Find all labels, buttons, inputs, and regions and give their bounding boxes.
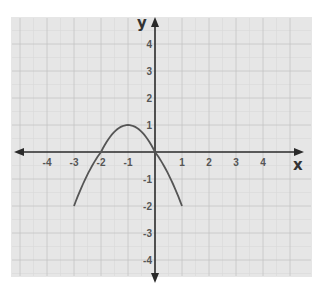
y-tick-label: 1 (146, 120, 152, 131)
x-tick-label: 3 (233, 157, 239, 168)
y-axis-down-arrow-icon (151, 273, 159, 283)
x-tick-label: -1 (124, 157, 133, 168)
y-tick-label: 3 (146, 66, 152, 77)
coordinate-plane: -4-3-2-11234 4321-1-2-3-4 x y (0, 0, 322, 291)
y-tick-label: -1 (143, 174, 152, 185)
y-tick-label: 4 (146, 39, 152, 50)
y-tick-label: -3 (143, 228, 152, 239)
x-axis-label: x (293, 156, 303, 174)
x-tick-label: 4 (260, 157, 266, 168)
y-tick-label: 2 (146, 93, 152, 104)
grid-background (11, 17, 312, 277)
x-tick-label: 1 (179, 157, 185, 168)
x-tick-label: -2 (97, 157, 106, 168)
y-axis-label: y (137, 14, 147, 32)
y-tick-label: -2 (143, 201, 152, 212)
x-tick-label: -4 (43, 157, 52, 168)
y-tick-label: -4 (143, 255, 152, 266)
x-tick-label: 2 (206, 157, 212, 168)
x-tick-label: -3 (70, 157, 79, 168)
